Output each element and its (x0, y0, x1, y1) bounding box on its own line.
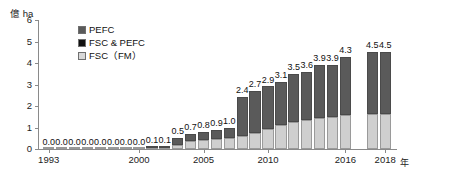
x-axis-tick-label: 2000 (121, 155, 157, 165)
bar-segment-fsc-fm (275, 125, 286, 149)
bar-2000[interactable] (133, 20, 144, 149)
bar-segment-pefc (367, 52, 378, 113)
bar-value-label: 3.1 (270, 71, 291, 80)
bar-segment-pefc (262, 86, 273, 129)
x-axis-tick-mark (49, 150, 50, 153)
x-axis-tick-label: 2018 (367, 155, 403, 165)
bar-1994[interactable] (56, 20, 67, 149)
bar-segment-fsc-fm (211, 139, 222, 149)
bar-segment-fsc-fm (314, 118, 325, 149)
bar-segment-fsc-fm (120, 147, 131, 149)
bar-2013[interactable] (301, 20, 312, 149)
bar-segment-fsc-fm (224, 138, 235, 149)
bar-segment-fsc-fm (43, 147, 54, 149)
bar-segment-fsc-fm (380, 114, 391, 149)
bar-segment-pefc (327, 65, 338, 117)
bar-1998[interactable] (108, 20, 119, 149)
bar-2015[interactable] (327, 20, 338, 149)
bar-value-label: 1.0 (219, 117, 240, 126)
bar-segment-pefc (224, 128, 235, 139)
bar-segment-fsc-fm (237, 136, 248, 149)
x-axis-tick-mark (139, 150, 140, 153)
bar-segment-fsc-fm (249, 133, 260, 149)
bar-segment-pefc (198, 132, 209, 141)
bar-segment-pefc (288, 74, 299, 122)
bar-segment-fsc-fm (172, 145, 183, 149)
bar-segment-fsc-fm (340, 115, 351, 149)
bar-1995[interactable] (69, 20, 80, 149)
bar-2007[interactable] (224, 20, 235, 149)
bar-segment-pefc (159, 146, 170, 148)
bar-segment-fsc-fm (367, 114, 378, 149)
bar-segment-fsc-fm (69, 147, 80, 149)
bar-segment-fsc-fm (198, 140, 209, 149)
bar-segment-fsc-fm (288, 122, 299, 149)
bar-segment-fsc-fm (82, 147, 93, 149)
bar-segment-fsc-fm (56, 147, 67, 149)
bar-segment-pefc (249, 91, 260, 133)
x-axis-tick-label: 2010 (250, 155, 286, 165)
x-axis-unit-label: 年 (400, 156, 409, 169)
bar-segment-fsc-fm (133, 147, 144, 149)
bar-2001[interactable] (146, 20, 157, 149)
bar-segment-pefc (314, 65, 325, 118)
x-axis-tick-mark (385, 150, 386, 153)
bar-segment-pefc (340, 57, 351, 115)
x-axis-tick-label: 2016 (327, 155, 363, 165)
bar-1993[interactable] (43, 20, 54, 149)
bar-segment-fsc-fm (185, 141, 196, 149)
bar-segment-fsc-fm (108, 147, 119, 149)
bar-1996[interactable] (82, 20, 93, 149)
x-axis-tick-mark (268, 150, 269, 153)
bar-segment-fsc-fm (95, 147, 106, 149)
bar-segment-pefc (301, 72, 312, 120)
bar-2012[interactable] (288, 20, 299, 149)
bar-value-label: 3.9 (322, 54, 343, 63)
bar-value-label: 0.1 (154, 136, 175, 145)
x-axis-tick-label: 1993 (31, 155, 67, 165)
bar-value-label: 4.3 (335, 46, 356, 55)
x-axis-tick-mark (204, 150, 205, 153)
bar-segment-pefc (380, 52, 391, 113)
bar-1999[interactable] (120, 20, 131, 149)
chart-container: 億 ha 0123456 PEFCFSC & PEFCFSC（FM） 0.00.… (0, 0, 449, 186)
bar-segment-fsc-fm (262, 129, 273, 149)
bar-2014[interactable] (314, 20, 325, 149)
bar-segment-fsc-fm (327, 117, 338, 149)
bar-value-label: 4.5 (375, 41, 396, 50)
bar-segment-fsc-fm (301, 120, 312, 149)
x-axis-tick-mark (345, 150, 346, 153)
bar-segment-pefc (275, 82, 286, 125)
bar-2016[interactable] (340, 20, 351, 149)
bar-segment-pefc (211, 130, 222, 140)
x-axis-tick-label: 2005 (186, 155, 222, 165)
bar-1997[interactable] (95, 20, 106, 149)
